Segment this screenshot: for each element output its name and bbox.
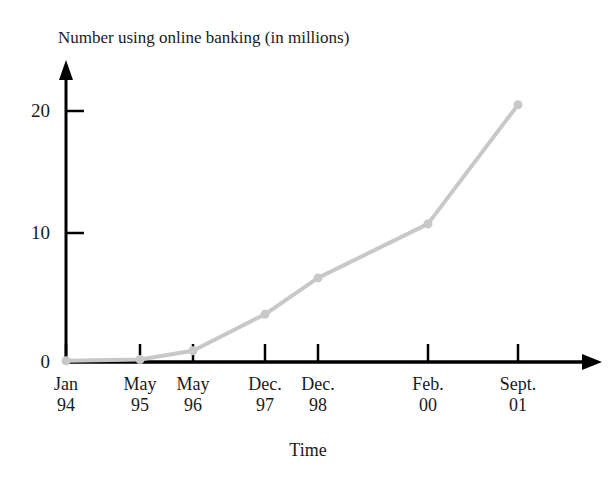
x-axis: [66, 354, 602, 370]
y-tick-label-0: 0: [6, 352, 50, 371]
x-tick-label-year: 98: [278, 395, 358, 416]
data-point-marker: [261, 310, 270, 319]
x-tick-label-may-96: May 96: [153, 374, 233, 416]
x-tick-label-month: May: [153, 374, 233, 395]
data-series-markers: [62, 100, 523, 365]
x-tick-label-year: 94: [26, 395, 106, 416]
data-point-marker: [514, 100, 523, 109]
data-point-marker: [314, 273, 323, 282]
x-axis-title: Time: [0, 440, 616, 461]
data-point-marker: [62, 356, 71, 365]
data-series-line: [66, 105, 518, 361]
y-tick-label-20: 20: [6, 101, 50, 120]
x-tick-label-month: Dec.: [278, 374, 358, 395]
x-tick-label-feb-00: Feb. 00: [388, 374, 468, 416]
x-tick-label-year: 01: [478, 395, 558, 416]
chart-figure: Number using online banking (in millions…: [0, 0, 616, 482]
x-tick-label-month: Sept.: [478, 374, 558, 395]
y-axis: [59, 60, 73, 362]
x-tick-label-month: Jan: [26, 374, 106, 395]
y-tick-label-10: 10: [6, 223, 50, 242]
x-tick-label-year: 96: [153, 395, 233, 416]
x-tick-label-jan-94: Jan 94: [26, 374, 106, 416]
x-tick-label-dec-98: Dec. 98: [278, 374, 358, 416]
x-tick-label-month: Feb.: [388, 374, 468, 395]
x-tick-label-year: 00: [388, 395, 468, 416]
data-point-marker: [424, 219, 433, 228]
data-point-marker: [189, 346, 198, 355]
y-axis-ticks: [66, 111, 84, 233]
data-point-marker: [136, 355, 145, 364]
x-tick-label-sept-01: Sept. 01: [478, 374, 558, 416]
